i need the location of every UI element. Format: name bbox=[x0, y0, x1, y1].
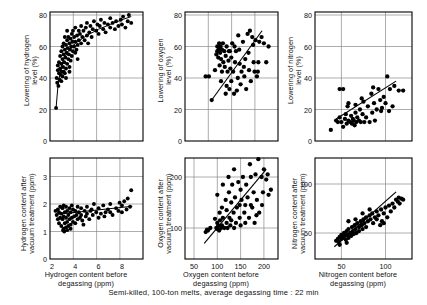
data-point bbox=[250, 35, 254, 39]
data-point bbox=[248, 162, 252, 166]
data-point bbox=[113, 27, 117, 31]
data-point bbox=[243, 203, 247, 207]
data-point bbox=[244, 87, 248, 91]
chart-panel-nitrogen-after: 50 100 50 100 bbox=[291, 152, 416, 272]
data-point bbox=[238, 223, 242, 227]
data-point bbox=[68, 65, 72, 69]
data-point bbox=[239, 70, 243, 74]
data-point bbox=[266, 44, 270, 48]
svg-text:40: 40 bbox=[174, 74, 182, 83]
data-point bbox=[64, 67, 68, 71]
svg-text:80: 80 bbox=[39, 11, 47, 20]
svg-text:1: 1 bbox=[43, 228, 47, 237]
data-point bbox=[61, 228, 65, 232]
figure-caption: Semi-killed, 100-ton melts, average dega… bbox=[0, 288, 427, 297]
data-point bbox=[231, 211, 235, 215]
data-point bbox=[378, 98, 382, 102]
p6-x-axis-label: Nitrogen content before degassing (ppm) bbox=[288, 271, 427, 288]
data-point bbox=[401, 198, 405, 202]
svg-text:20: 20 bbox=[174, 106, 182, 115]
data-point bbox=[84, 26, 88, 30]
svg-text:40: 40 bbox=[304, 74, 312, 83]
data-point bbox=[92, 19, 96, 23]
data-point bbox=[249, 203, 253, 207]
data-point bbox=[261, 190, 265, 194]
p6-ytick-labels: 50 100 50 100 bbox=[300, 180, 392, 271]
data-point bbox=[242, 211, 246, 215]
data-point bbox=[68, 70, 72, 74]
data-point bbox=[266, 193, 270, 197]
data-point bbox=[387, 109, 391, 113]
data-point bbox=[126, 19, 130, 23]
data-point bbox=[65, 228, 69, 232]
data-point bbox=[228, 49, 232, 53]
data-point bbox=[120, 23, 124, 27]
data-point bbox=[236, 33, 240, 37]
data-point bbox=[227, 190, 231, 194]
data-point bbox=[388, 87, 392, 91]
data-point bbox=[353, 217, 357, 221]
data-point bbox=[255, 198, 259, 202]
data-point bbox=[262, 41, 266, 45]
data-point bbox=[376, 213, 380, 217]
data-point bbox=[76, 43, 80, 47]
p5-plot: 100 200 50 100 150 200 bbox=[161, 152, 281, 272]
data-point bbox=[380, 106, 384, 110]
p1-ytick-labels: 0 20 40 60 80 bbox=[39, 11, 47, 146]
data-point bbox=[79, 41, 83, 45]
data-point bbox=[254, 213, 258, 217]
data-point bbox=[367, 120, 371, 124]
data-point bbox=[224, 44, 228, 48]
data-point bbox=[76, 57, 80, 61]
data-point bbox=[229, 79, 233, 83]
data-point bbox=[392, 84, 396, 88]
data-point bbox=[360, 112, 364, 116]
p4-x-axis-label: Hydrogen content before degassing (ppm) bbox=[16, 271, 156, 288]
data-point bbox=[58, 54, 62, 58]
data-point bbox=[252, 190, 256, 194]
svg-text:100: 100 bbox=[170, 224, 182, 233]
data-point bbox=[364, 225, 368, 229]
data-point bbox=[97, 32, 101, 36]
p1-data-points bbox=[54, 13, 133, 110]
data-point bbox=[94, 210, 98, 214]
data-point bbox=[108, 202, 112, 206]
data-point bbox=[79, 213, 83, 217]
data-point bbox=[257, 40, 261, 44]
data-point bbox=[104, 30, 108, 34]
data-point bbox=[97, 216, 101, 220]
data-point bbox=[224, 92, 228, 96]
svg-text:20: 20 bbox=[304, 106, 312, 115]
data-point bbox=[264, 177, 268, 181]
data-point bbox=[233, 195, 237, 199]
data-point bbox=[397, 88, 401, 92]
svg-text:2: 2 bbox=[43, 200, 47, 209]
data-point bbox=[221, 183, 225, 187]
data-point bbox=[382, 95, 386, 99]
data-point bbox=[256, 157, 260, 161]
data-point bbox=[375, 217, 379, 221]
data-point bbox=[63, 35, 67, 39]
data-point bbox=[253, 172, 257, 176]
p5-gridlines bbox=[185, 158, 278, 259]
data-point bbox=[249, 175, 253, 179]
data-point bbox=[79, 24, 83, 28]
data-point bbox=[87, 217, 91, 221]
data-point bbox=[129, 21, 133, 25]
data-point bbox=[249, 79, 253, 83]
data-point bbox=[59, 49, 63, 53]
data-point bbox=[90, 35, 94, 39]
data-point bbox=[83, 38, 87, 42]
svg-text:60: 60 bbox=[39, 43, 47, 52]
data-point bbox=[64, 205, 68, 209]
data-point bbox=[221, 41, 225, 45]
data-point bbox=[215, 193, 219, 197]
data-point bbox=[120, 210, 124, 214]
data-point bbox=[390, 201, 394, 205]
p5-data-points bbox=[204, 157, 274, 234]
data-point bbox=[329, 128, 333, 132]
data-point bbox=[397, 201, 401, 205]
data-point bbox=[360, 211, 364, 215]
data-point bbox=[69, 59, 73, 63]
svg-text:80: 80 bbox=[304, 11, 312, 20]
